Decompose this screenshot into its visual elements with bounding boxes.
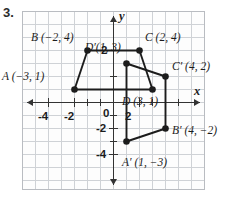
y-tick-2: 2: [101, 44, 107, 56]
x-axis-label: x: [194, 84, 200, 99]
label-point-b: B (−2, 4): [31, 31, 74, 43]
point-a-prime: [123, 138, 130, 145]
point-d-prime: [123, 60, 130, 67]
quadrilateral-abcd: [75, 51, 153, 90]
label-point-c: C (2, 4): [145, 31, 180, 43]
label-point-a-prime: A′ (1, −3): [122, 156, 167, 168]
problem-number: 3.: [3, 5, 14, 20]
y-axis-label: y: [119, 9, 125, 24]
x-tick-neg4: -4: [38, 110, 48, 122]
x-tick-neg2: -2: [64, 110, 74, 122]
point-c-prime: [162, 73, 169, 80]
point-b-prime: [162, 125, 169, 132]
label-point-c-prime: C′ (4, 2): [172, 60, 210, 72]
label-point-d: D (3, 1): [122, 95, 158, 107]
point-c: [136, 47, 143, 54]
point-d: [149, 86, 156, 93]
label-point-a: A (−3, 1): [2, 70, 44, 82]
point-a: [71, 86, 78, 93]
label-point-b-prime: B′ (4, −2): [172, 124, 217, 136]
x-tick-2: 2: [125, 110, 131, 122]
y-tick-neg4: -4: [96, 148, 106, 160]
worksheet-figure: 3.: [0, 0, 248, 199]
y-tick-neg2: -2: [96, 122, 106, 134]
origin-label: 0: [103, 107, 109, 119]
